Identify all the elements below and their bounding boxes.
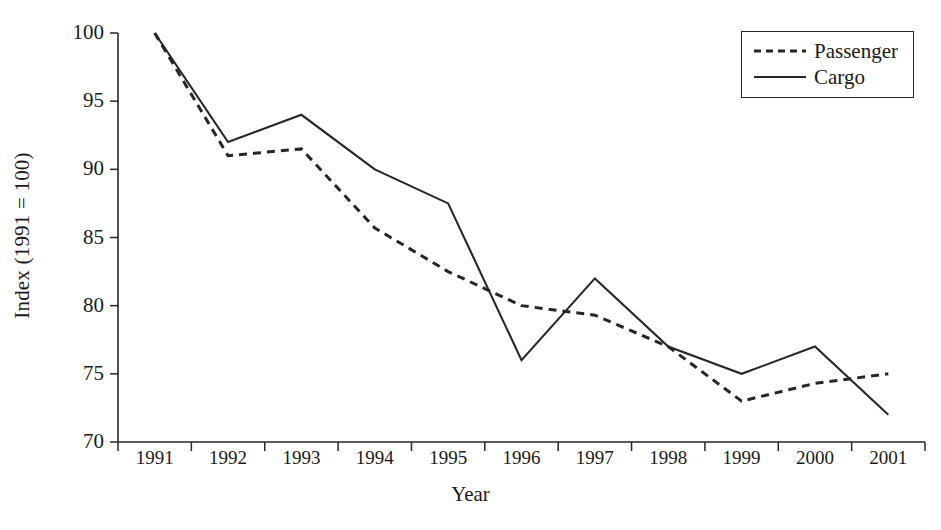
x-axis-tick-label: 1997 — [558, 448, 631, 467]
x-axis-tick-label: 1993 — [265, 448, 338, 467]
y-axis-ticks — [110, 33, 118, 442]
legend-label: Cargo — [814, 65, 865, 90]
x-axis-tick-label: 2000 — [778, 448, 851, 467]
x-axis-tick-label: 2001 — [852, 448, 925, 467]
y-axis-tick-label: 90 — [44, 158, 104, 179]
x-axis-tick-label: 1995 — [411, 448, 484, 467]
y-axis-tick-label: 100 — [44, 22, 104, 43]
legend-item-cargo[interactable]: Cargo — [752, 64, 903, 90]
line-chart: Index (1991 = 100) Year 707580859095100 … — [0, 0, 941, 530]
y-axis-tick-label: 95 — [44, 90, 104, 111]
x-axis-tick-label: 1994 — [338, 448, 411, 467]
x-axis-tick-label: 1998 — [632, 448, 705, 467]
legend-item-passenger[interactable]: Passenger — [752, 38, 903, 64]
x-axis-tick-label: 1992 — [191, 448, 264, 467]
legend: PassengerCargo — [741, 31, 914, 98]
y-axis-tick-label: 70 — [44, 431, 104, 452]
legend-label: Passenger — [814, 39, 898, 64]
legend-swatch-solid — [752, 71, 808, 83]
y-axis-tick-label: 85 — [44, 227, 104, 248]
legend-swatch-dashed — [752, 45, 808, 57]
x-axis-tick-label: 1991 — [118, 448, 191, 467]
x-axis-tick-label: 1996 — [485, 448, 558, 467]
y-axis-tick-label: 75 — [44, 363, 104, 384]
x-axis-tick-label: 1999 — [705, 448, 778, 467]
y-axis-tick-label: 80 — [44, 295, 104, 316]
